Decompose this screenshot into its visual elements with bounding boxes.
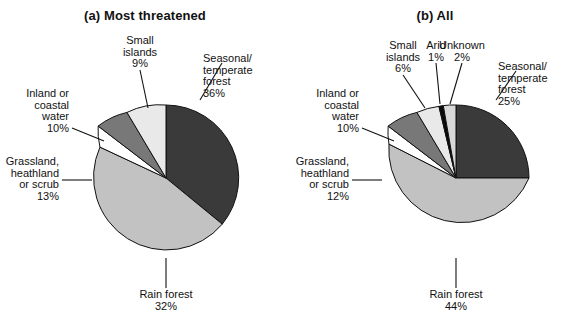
panel-b-all: (b) All Seasonal/ temp xyxy=(290,0,580,317)
label-a-rain-forest: Rain forest 32% xyxy=(112,289,220,312)
leader-line-b-unknown xyxy=(450,63,462,104)
panel-a-most-threatened: (a) Most threatened Seasonal/ temperate … xyxy=(0,0,290,317)
label-b-inland-coastal-water: Inland or coastal water 10% xyxy=(295,88,359,134)
label-a-seasonal-temperate-forest: Seasonal/ temperate forest 36% xyxy=(203,53,279,99)
label-b-grassland-heathland-scrub: Grassland, heathland or scrub 12% xyxy=(290,156,349,202)
label-a-small-islands: Small islands 9% xyxy=(107,35,173,70)
label-b-rain-forest: Rain forest 44% xyxy=(402,289,510,312)
label-b-seasonal-temperate-forest: Seasonal/ temperate forest 25% xyxy=(498,61,576,107)
figure-two-pie-charts: (a) Most threatened Seasonal/ temperate … xyxy=(0,0,580,317)
label-b-unknown: Unknown 2% xyxy=(433,40,491,63)
label-a-inland-coastal-water: Inland or coastal water 10% xyxy=(5,88,69,134)
slice-b-seasonal-temperate-forest xyxy=(456,105,529,178)
leader-line-a-islands xyxy=(140,70,148,108)
leader-line-b-arid xyxy=(436,63,440,104)
label-a-grassland-heathland-scrub: Grassland, heathland or scrub 13% xyxy=(0,156,59,202)
leader-line-b-islands xyxy=(403,75,425,108)
